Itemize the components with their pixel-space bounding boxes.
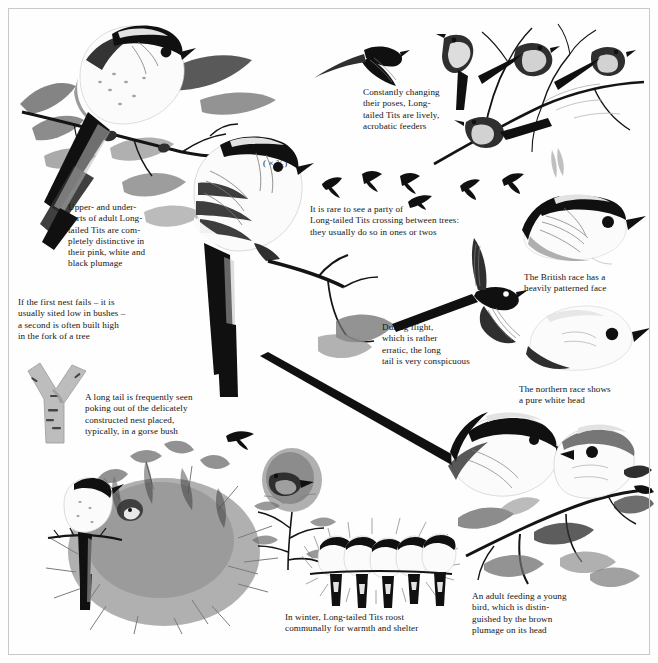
winter-roost-row-illustration xyxy=(302,512,462,612)
scale-annotation: ( × ³⁄₅) xyxy=(263,158,287,168)
adult-bird-feeding xyxy=(448,412,572,496)
branch-with-leaf xyxy=(268,255,394,358)
adult-and-juvenile-illustration xyxy=(448,406,654,606)
caption-british-race: The British race has a heavily patterned… xyxy=(524,272,654,295)
caption-adult-plumage: Upper- and under- parts of adult Long- t… xyxy=(68,202,228,270)
caption-second-nest: If the first nest fails – it is usually … xyxy=(18,297,218,342)
nest-entrance xyxy=(117,499,143,521)
leafy-branch xyxy=(458,490,654,587)
caption-crossing-between-trees: It is rare to see a party of Long-tailed… xyxy=(310,204,540,238)
juvenile-bird xyxy=(554,425,654,499)
adult-tit-body xyxy=(74,25,196,126)
caption-adult-feeding-young: An adult feeding a young bird, which is … xyxy=(472,591,627,636)
caption-northern-race: The northern race shows a pure white hea… xyxy=(519,384,654,407)
catkin xyxy=(551,148,564,178)
caption-during-flight: During flight, which is rather erratic, … xyxy=(382,322,512,367)
illustration-plate: ( × ³⁄₅) Upper- and under- parts of adul… xyxy=(0,0,658,663)
head-northern-race-illustration xyxy=(512,300,652,380)
caption-acrobatic-feeders: Constantly changing their poses, Long- t… xyxy=(363,87,513,132)
caption-long-tail-nest: A long tail is frequently seen poking ou… xyxy=(85,392,295,437)
tit-upright-centre xyxy=(478,43,560,84)
caption-winter-roost: In winter, Long-tailed Tits roost commun… xyxy=(285,612,490,635)
